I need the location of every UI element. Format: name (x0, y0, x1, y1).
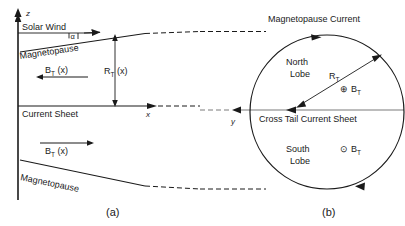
svg-text:BT (x): BT (x) (45, 146, 68, 158)
panel-a-south-field-label: BT (x) (45, 146, 68, 158)
panel-b-magnetopause-current-arrowheads (311, 34, 365, 190)
panel-b-cross-tail-current-arrowhead (286, 107, 296, 114)
panel-a-magnetopause-top-label: Magnetopause (19, 43, 79, 61)
panel-b-south-lobe-label-line2: Lobe (290, 156, 310, 166)
panel-a-solar-wind-label: Solar Wind (22, 22, 66, 32)
panel-b-radius-sub: T (336, 76, 340, 83)
panel-a-tail-radius-label: RT (x) (104, 66, 127, 78)
panel-a-north-lobe-field-arrow (36, 74, 88, 80)
panel-b-north-lobe-label-line2: Lobe (290, 69, 310, 79)
panel-b-magnetopause-current-label: Magnetopause Current (268, 14, 361, 24)
svg-text:RT (x): RT (x) (104, 66, 127, 78)
panel-a-flare-angle-label: α (71, 32, 76, 41)
panel-b-north-lobe-label-line1: North (286, 57, 308, 67)
panel-b-south-lobe-label-line1: South (286, 144, 310, 154)
panel-a-z-axis (14, 8, 21, 200)
z-axis-arrowhead (14, 8, 21, 17)
svg-text:BT (x): BT (x) (45, 65, 68, 77)
panel-b-cross-tail-current-sheet-label: Cross Tail Current Sheet (259, 114, 357, 124)
panel-b-field-into-sub: T (357, 89, 361, 96)
panel-a-radius-arg: (x) (114, 66, 127, 76)
figure-canvas: z Solar Wind Magnetopause α x Current Sh… (0, 0, 405, 226)
panel-b-radius-label: RT (329, 71, 340, 83)
x-axis-arrowhead (147, 103, 157, 109)
panel-a-caption-label: (a) (106, 206, 119, 218)
magnetotail-geometry-figure: z Solar Wind Magnetopause α x Current Sh… (0, 0, 405, 226)
panel-b-y-axis (200, 107, 404, 114)
panel-a-north-field-label: BT (x) (45, 65, 68, 77)
panel-b-y-axis-label: y (230, 117, 236, 126)
panel-a-current-sheet-label: Current Sheet (22, 109, 79, 119)
panel-a-upper-magnetopause-dash (145, 32, 200, 34)
panel-b-field-into-page: ⊕ BT (340, 84, 361, 96)
field-out-of-page-icon: ⊙ (340, 144, 348, 154)
svg-text:BT: BT (351, 84, 361, 96)
panel-b-field-out-of-page: ⊙ BT (340, 144, 361, 156)
panel-a-x-axis-label: x (145, 110, 151, 119)
bottom-current-arrowhead (355, 183, 365, 191)
panel-b-caption-label: (b) (322, 206, 335, 218)
panel-a-solar-wind-flow-arrow (84, 32, 100, 33)
field-into-page-icon: ⊕ (340, 84, 348, 94)
y-axis-arrowhead (232, 107, 241, 114)
svg-text:BT: BT (351, 144, 361, 156)
svg-text:RT: RT (329, 71, 340, 83)
panel-a-z-axis-label: z (25, 9, 30, 18)
panel-a-south-field-arg: (x) (55, 146, 68, 156)
panel-a-magnetopause-bottom-label: Magnetopause (20, 172, 80, 194)
panel-a-lower-magnetopause-dash (145, 186, 200, 189)
panel-b-tail-cross-section-circle (250, 35, 404, 189)
panel-a-north-field-arg: (x) (55, 65, 68, 75)
panel-a-south-lobe-field-arrow (40, 140, 94, 146)
panel-b-field-out-sub: T (357, 149, 361, 156)
